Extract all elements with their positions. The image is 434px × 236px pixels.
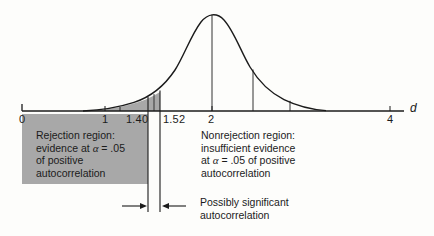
axis-tick-label-4: 4 [387,113,393,125]
axis-tick-label-0: 0 [19,113,25,125]
rejection-line-4: autocorrelation [36,167,125,180]
possibly-significant-annotation: Possibly significant autocorrelation [200,196,289,221]
nonrejection-line-3-post: = .05 of positive [218,154,295,166]
nonrejection-line-1: Nonrejection region: [201,129,295,142]
distribution-curve [83,15,326,111]
nonrejection-region-annotation: Nonrejection region: insufficient eviden… [201,129,295,179]
arrow-right-head [162,203,169,209]
rejection-line-2-post: = .05 [98,142,125,154]
rejection-line-1: Rejection region: [36,129,125,142]
axis-tick-label-2: 2 [208,113,214,125]
nonrejection-line-2: insufficient evidence [201,142,295,155]
durbin-watson-figure: 0 1 1.40 1.52 2 4 d Rejection region: ev… [0,0,434,236]
possibly-line-1: Possibly significant [200,196,289,209]
nonrejection-line-3-pre: at [201,154,213,166]
axis-variable-label-d: d [410,101,417,115]
rejection-line-3: of positive [36,154,125,167]
rejection-line-2-pre: evidence at [36,142,93,154]
possibly-line-2: autocorrelation [200,209,289,222]
axis-tick-label-1: 1 [102,113,108,125]
nonrejection-line-4: autocorrelation [201,167,295,180]
rejection-region-annotation: Rejection region: evidence at α = .05 of… [36,129,125,179]
rejection-line-2: evidence at α = .05 [36,142,125,155]
arrow-left-head [140,203,147,209]
nonrejection-line-3: at α = .05 of positive [201,154,295,167]
axis-tick-label-1-52: 1.52 [163,113,185,125]
axis-tick-label-1-40: 1.40 [126,113,148,125]
